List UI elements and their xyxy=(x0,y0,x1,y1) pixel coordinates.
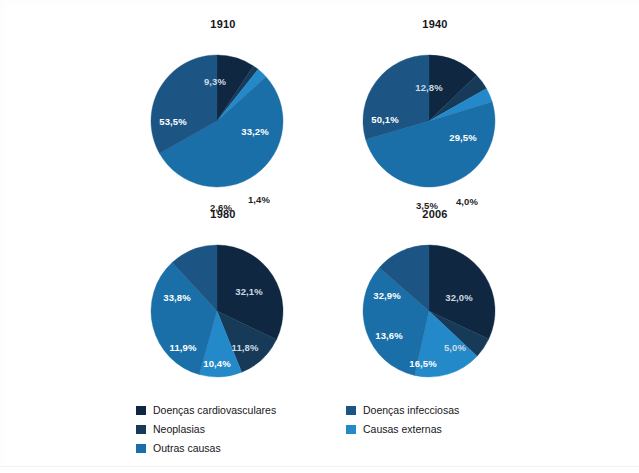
slice-value-label: 5,0% xyxy=(444,342,467,353)
pie-chart-1980: 198032,1%11,8%10,4%33,8%11,9% xyxy=(148,208,298,403)
slice-value-label: 16,5% xyxy=(409,358,437,369)
slice-value-label: 12,8% xyxy=(415,82,443,93)
slice-value-label: 11,8% xyxy=(232,342,259,353)
pie-chart-2006: 200632,0%5,0%16,5%32,9%13,6% xyxy=(360,208,510,403)
legend-column-right: Doenças infecciosasCausas externas xyxy=(346,402,526,440)
legend-swatch-externas xyxy=(346,425,356,434)
slice-value-label: 33,2% xyxy=(241,126,269,137)
legend-column-left: Doenças cardiovascularesNeoplasiasOutras… xyxy=(136,402,346,459)
legend-label-infecciosas: Doenças infecciosas xyxy=(363,404,459,416)
legend-label-neoplasias: Neoplasias xyxy=(153,423,205,435)
legend-swatch-outras xyxy=(136,444,146,453)
slice-value-label: 13,6% xyxy=(375,330,403,341)
pie-area: 12,8%4,0%3,5%50,1%29,5% xyxy=(360,33,510,213)
slice-value-label: 32,1% xyxy=(235,286,263,297)
slice-value-label: 10,4% xyxy=(203,358,231,369)
slice-value-label: 33,8% xyxy=(163,292,191,303)
slice-value-label: 53,5% xyxy=(159,116,187,127)
legend-swatch-cardio xyxy=(136,406,146,415)
legend-item-outras[interactable]: Outras causas xyxy=(136,440,346,456)
slice-value-label: 1,4% xyxy=(248,194,271,205)
legend-swatch-neoplasias xyxy=(136,425,146,434)
top-caption-sliver xyxy=(0,0,639,10)
page-left-margin xyxy=(0,0,4,473)
legend-item-neoplasias[interactable]: Neoplasias xyxy=(136,421,346,437)
pie-chart-1910: 19109,3%1,4%2,6%53,5%33,2% xyxy=(148,18,298,213)
chart-title-1940: 1940 xyxy=(360,18,510,30)
chart-title-1910: 1910 xyxy=(148,18,298,30)
pie-area: 32,1%11,8%10,4%33,8%11,9% xyxy=(148,223,298,403)
legend-item-externas[interactable]: Causas externas xyxy=(346,421,526,437)
page-bottom-margin xyxy=(0,466,639,473)
legend-label-cardio: Doenças cardiovasculares xyxy=(153,404,276,416)
legend: Doenças cardiovascularesNeoplasiasOutras… xyxy=(136,402,526,459)
pie-svg: 32,1%11,8%10,4%33,8%11,9% xyxy=(148,223,298,403)
pie-svg: 12,8%4,0%3,5%50,1%29,5% xyxy=(360,33,510,213)
pie-svg: 9,3%1,4%2,6%53,5%33,2% xyxy=(148,33,298,213)
pie-svg: 32,0%5,0%16,5%32,9%13,6% xyxy=(360,223,510,403)
figure-sheet: 19109,3%1,4%2,6%53,5%33,2%194012,8%4,0%3… xyxy=(0,0,639,473)
slice-value-label: 11,9% xyxy=(170,342,197,353)
slice-value-label: 50,1% xyxy=(371,114,399,125)
pie-area: 32,0%5,0%16,5%32,9%13,6% xyxy=(360,223,510,403)
legend-item-infecciosas[interactable]: Doenças infecciosas xyxy=(346,402,526,418)
pie-chart-1940: 194012,8%4,0%3,5%50,1%29,5% xyxy=(360,18,510,213)
legend-item-cardio[interactable]: Doenças cardiovasculares xyxy=(136,402,346,418)
legend-label-outras: Outras causas xyxy=(153,442,221,454)
legend-swatch-infecciosas xyxy=(346,406,356,415)
slice-value-label: 4,0% xyxy=(456,196,479,207)
chart-title-1980: 1980 xyxy=(148,208,298,220)
slice-value-label: 32,0% xyxy=(445,292,473,303)
slice-value-label: 29,5% xyxy=(449,132,477,143)
chart-title-2006: 2006 xyxy=(360,208,510,220)
slice-value-label: 9,3% xyxy=(204,76,227,87)
slice-value-label: 32,9% xyxy=(373,290,401,301)
legend-label-externas: Causas externas xyxy=(363,423,442,435)
pie-area: 9,3%1,4%2,6%53,5%33,2% xyxy=(148,33,298,213)
